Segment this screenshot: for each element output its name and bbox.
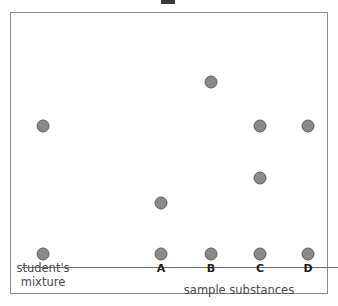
students-mixture-label: student's mixture <box>16 261 69 289</box>
column-label-b: B <box>207 262 215 275</box>
spot-c-1 <box>254 120 267 133</box>
origin-spot-c <box>254 248 267 261</box>
column-label-d: D <box>303 262 312 275</box>
spot-c-2 <box>254 172 267 185</box>
origin-spot-student-s-mixture <box>37 248 50 261</box>
students-mixture-label-line2: mixture <box>16 275 69 289</box>
column-label-c: C <box>256 262 264 275</box>
column-label-a: A <box>157 262 166 275</box>
cropped-title-remnant <box>161 0 175 4</box>
axis-caption: sample substances <box>184 283 294 297</box>
origin-spot-a <box>155 248 168 261</box>
spot-b-1 <box>205 76 218 89</box>
origin-spot-d <box>302 248 315 261</box>
spot-student-s-mixture-1 <box>37 120 50 133</box>
students-mixture-label-line1: student's <box>16 261 69 275</box>
chromatogram-figure: ABCD student's mixture sample substances <box>0 0 338 306</box>
chromatography-plate <box>10 12 328 294</box>
spot-a-1 <box>155 197 168 210</box>
spot-d-1 <box>302 120 315 133</box>
origin-spot-b <box>205 248 218 261</box>
